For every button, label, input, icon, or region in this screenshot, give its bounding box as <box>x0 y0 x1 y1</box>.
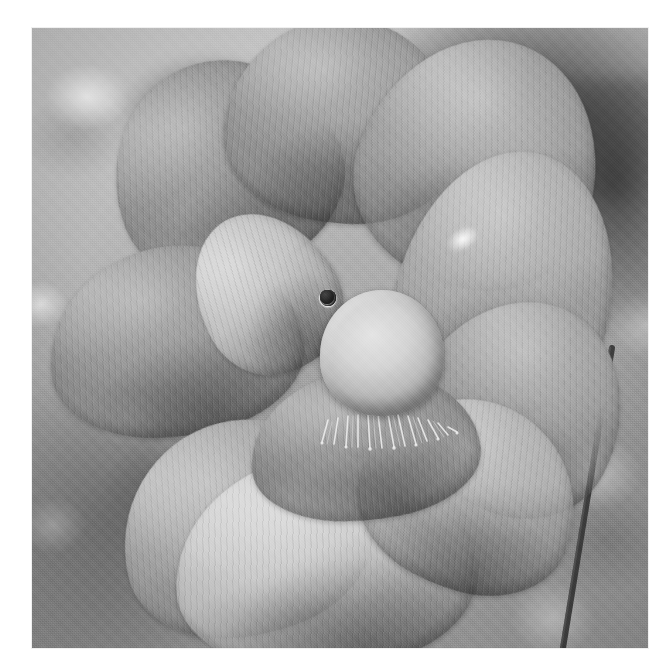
lotus-photograph <box>32 28 648 648</box>
carpel-group <box>320 290 444 416</box>
seed-pod <box>320 290 444 416</box>
image-canvas <box>0 0 670 669</box>
carpel-hole <box>320 290 334 304</box>
